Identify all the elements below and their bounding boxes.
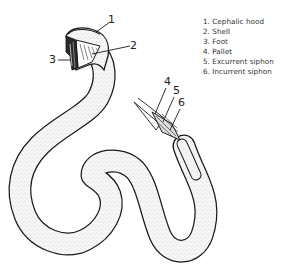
callout-5: 5 (173, 85, 180, 96)
head-shell-region (66, 28, 108, 70)
legend-item-cephalic-hood: 1. Cephalic hood (203, 17, 274, 27)
legend-item-shell: 2. Shell (203, 27, 274, 37)
callout-2: 2 (130, 40, 137, 51)
worm-body (20, 52, 206, 251)
legend-item-excurrent-siphon: 5. Excurrent siphon (203, 57, 274, 67)
legend-item-incurrent-siphon: 6. Incurrent siphon (203, 67, 274, 77)
siphon-region (134, 98, 180, 140)
legend-item-pallet: 4. Pallet (203, 47, 274, 57)
shipworm-diagram: 1 2 3 4 5 6 1. Cephalic hood 2. Shell 3.… (0, 0, 293, 277)
callout-6: 6 (178, 97, 185, 108)
callout-3: 3 (49, 54, 56, 65)
legend-item-foot: 3. Foot (203, 37, 274, 47)
callout-4: 4 (164, 76, 171, 87)
foot (66, 36, 78, 70)
legend: 1. Cephalic hood 2. Shell 3. Foot 4. Pal… (203, 17, 274, 78)
callout-1: 1 (108, 14, 115, 25)
